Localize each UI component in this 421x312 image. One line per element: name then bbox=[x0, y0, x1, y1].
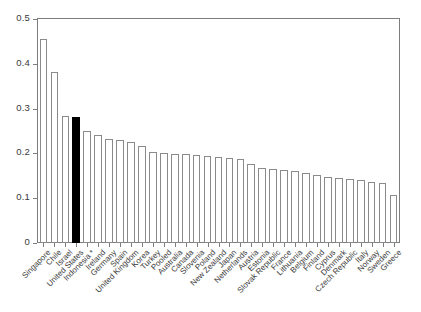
bar bbox=[171, 154, 179, 243]
x-axis-labels: SingaporeChileIsraelUnited StatesIndones… bbox=[38, 248, 399, 312]
y-axis-tick-label: 0.3 bbox=[16, 102, 30, 113]
bar bbox=[51, 72, 59, 243]
bar bbox=[40, 39, 48, 243]
bar bbox=[62, 116, 70, 243]
bar-chart-figure: 00.10.20.30.40.5 SingaporeChileIsraelUni… bbox=[0, 0, 421, 312]
x-axis-tick-mark bbox=[43, 243, 44, 247]
bars-layer bbox=[38, 19, 399, 243]
y-axis-tick-label: 0.5 bbox=[16, 12, 30, 23]
y-axis-tick-label: 0.2 bbox=[16, 146, 30, 157]
y-axis-tick-mark bbox=[33, 243, 37, 244]
bar bbox=[182, 154, 190, 243]
y-axis-tick-label: 0.1 bbox=[16, 191, 30, 202]
y-axis-tick-label: 0 bbox=[25, 236, 30, 247]
bar bbox=[83, 131, 91, 243]
y-axis-tick-label: 0.4 bbox=[16, 57, 30, 68]
bar bbox=[379, 183, 387, 243]
y-axis: 00.10.20.30.40.5 bbox=[0, 18, 37, 243]
